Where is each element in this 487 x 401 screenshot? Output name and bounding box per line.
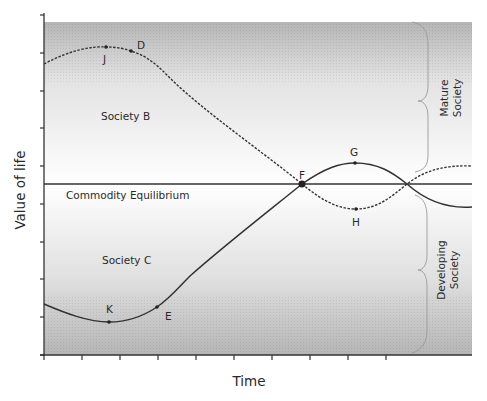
y-axis-label-group: Value of life: [12, 150, 28, 229]
society-b-label: Society B: [101, 110, 150, 122]
point-g: [353, 161, 357, 165]
equilibrium-label: Commodity Equilibrium: [66, 189, 189, 201]
lower-shaded-region: [44, 184, 472, 355]
y-axis-label: Value of life: [12, 150, 28, 229]
y-axis: [40, 13, 44, 356]
x-axis: [40, 355, 472, 360]
upper-shaded-region: [44, 22, 472, 184]
label-j: J: [102, 53, 106, 65]
point-e: [155, 305, 159, 309]
point-j: [104, 45, 108, 49]
society-c-label: Society C: [102, 254, 151, 266]
x-axis-label: Time: [231, 373, 265, 389]
point-h: [354, 207, 358, 211]
point-d: [129, 49, 133, 53]
mature-society-label: Mature Society: [438, 79, 463, 118]
svg-text:Society: Society: [448, 251, 460, 290]
label-f: F: [299, 169, 305, 181]
label-d: D: [137, 39, 145, 51]
svg-text:Developing: Developing: [435, 240, 447, 299]
value-of-life-diagram: J D F G H K E Society B Society C Commod…: [0, 0, 487, 401]
label-g: G: [350, 146, 358, 158]
point-f: [299, 181, 306, 188]
label-k: K: [106, 303, 114, 315]
point-k: [107, 320, 111, 324]
svg-text:Society: Society: [451, 79, 463, 118]
svg-text:Mature: Mature: [438, 80, 450, 117]
label-h: H: [352, 216, 360, 228]
label-e: E: [165, 310, 172, 322]
